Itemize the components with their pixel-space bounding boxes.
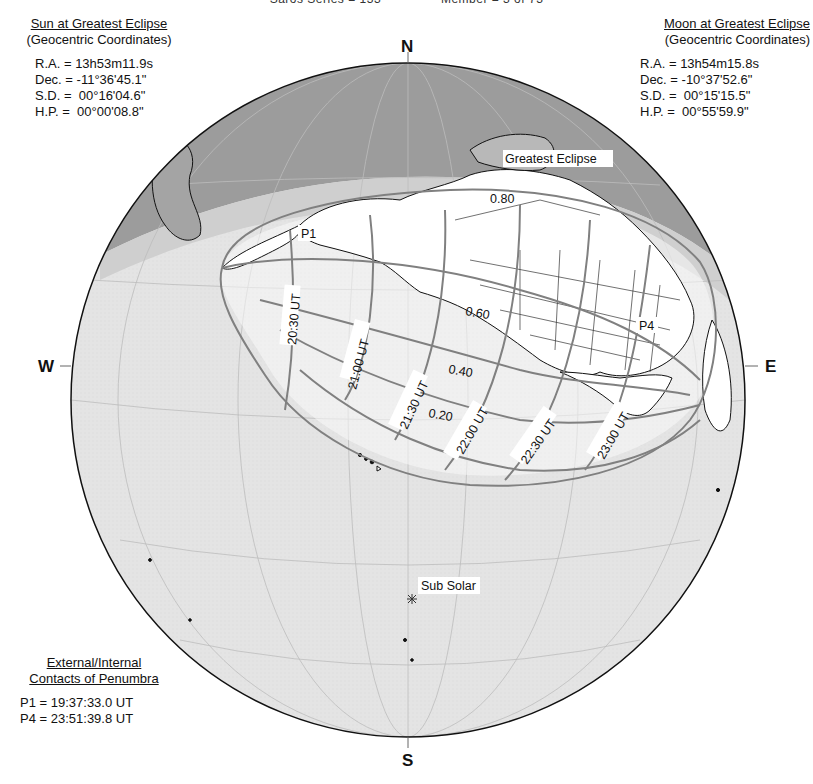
sun-panel-title: Sun at Greatest Eclipse xyxy=(7,16,191,32)
mag-080-label: 0.80 xyxy=(490,192,514,206)
contacts-title-line1: External/Internal xyxy=(14,655,174,671)
north-label: N xyxy=(401,37,413,57)
sub-solar-marker xyxy=(407,594,417,604)
sun-sd-row: S.D. = 00°16'04.6" xyxy=(35,88,191,104)
p4-label: P4 xyxy=(639,319,654,333)
south-label: S xyxy=(402,751,413,771)
sub-solar-label: Sub Solar xyxy=(421,579,476,593)
contact-p1-row: P1 = 19:37:33.0 UT xyxy=(20,695,174,711)
moon-panel: Moon at Greatest Eclipse (Geocentric Coo… xyxy=(600,16,810,120)
east-label: E xyxy=(765,357,776,377)
sun-hp-row: H.P. = 00°00'08.8" xyxy=(35,104,191,120)
contact-p4-row: P4 = 23:51:39.8 UT xyxy=(20,711,174,727)
moon-hp-row: H.P. = 00°55'59.9" xyxy=(640,104,810,120)
moon-dec-row: Dec. = -10°37'52.6" xyxy=(640,72,810,88)
sun-dec-row: Dec. = -11°36'45.1" xyxy=(35,72,191,88)
sun-ra-row: R.A. = 13h53m11.9s xyxy=(35,56,191,72)
contacts-title-line2: Contacts of Penumbra xyxy=(14,671,174,687)
moon-panel-subtitle: (Geocentric Coordinates) xyxy=(600,32,810,48)
p1-label: P1 xyxy=(301,227,316,241)
sun-panel-subtitle: (Geocentric Coordinates) xyxy=(7,32,191,48)
moon-ra-row: R.A. = 13h54m15.8s xyxy=(640,56,810,72)
west-label: W xyxy=(38,357,54,377)
greatest-eclipse-label: Greatest Eclipse xyxy=(505,152,597,166)
contacts-panel: External/Internal Contacts of Penumbra P… xyxy=(14,655,174,727)
moon-panel-title: Moon at Greatest Eclipse xyxy=(600,16,810,32)
moon-sd-row: S.D. = 00°15'15.5" xyxy=(640,88,810,104)
sun-panel: Sun at Greatest Eclipse (Geocentric Coor… xyxy=(7,16,191,120)
